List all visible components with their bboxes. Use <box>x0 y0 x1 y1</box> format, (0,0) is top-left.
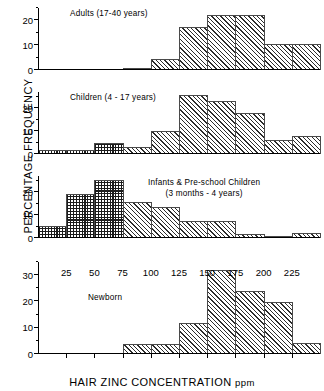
y-tick-minor <box>36 314 39 315</box>
panel-title-line: Newborn <box>88 292 122 303</box>
y-tick-label: 20 <box>22 187 33 197</box>
y-tick-minor <box>36 226 39 227</box>
x-tick-label: 100 <box>143 268 159 278</box>
panel-subtitle-line: (3 months - 4 years) <box>148 188 260 199</box>
panel-title-newborn: Newborn <box>88 292 122 303</box>
y-tick-label: 10 <box>22 210 33 220</box>
y-tick-minor <box>36 57 39 58</box>
histogram-bar <box>264 302 293 354</box>
x-tick <box>207 354 208 358</box>
histogram-bar <box>179 221 208 238</box>
histogram-bar <box>235 291 264 354</box>
y-tick-label: 20 <box>22 16 33 26</box>
x-tick <box>264 354 265 358</box>
histogram-bar <box>207 221 236 238</box>
y-tick-minor <box>36 32 39 33</box>
panel-title-adults: Adults (17-40 years) <box>70 8 148 19</box>
y-tick <box>34 237 38 238</box>
x-tick <box>292 354 293 358</box>
histogram-bar <box>207 15 236 70</box>
y-tick-minor <box>36 180 39 181</box>
histogram-bar <box>66 194 95 238</box>
x-tick-label: 225 <box>284 268 300 278</box>
x-axis-line <box>38 153 320 154</box>
panel-title-children: Children (4 - 17 years) <box>70 92 156 103</box>
y-tick-label: 20 <box>22 103 33 113</box>
x-tick-label: 50 <box>89 268 100 278</box>
y-tick-minor <box>36 119 39 120</box>
x-tick <box>179 354 180 358</box>
panel-title-line: Infants & Pre-school Children <box>148 177 260 188</box>
panel-title-line: Adults (17-40 years) <box>70 8 148 19</box>
x-axis-title-main: HAIR ZINC CONCENTRATION <box>69 376 231 388</box>
y-tick-label: 10 <box>22 126 33 136</box>
histogram-bar <box>235 113 264 154</box>
y-tick-minor <box>36 203 39 204</box>
x-tick-label: 75 <box>117 268 128 278</box>
y-tick <box>34 107 38 108</box>
histogram-bar <box>94 180 123 238</box>
x-tick <box>123 354 124 358</box>
histogram-bar <box>179 323 208 354</box>
x-tick-label: 175 <box>227 268 243 278</box>
histogram-bar <box>292 136 321 154</box>
histogram-bar <box>292 44 321 70</box>
y-tick-label: 10 <box>22 40 33 50</box>
y-axis-line <box>38 176 39 238</box>
histogram-bar <box>151 207 180 238</box>
histogram-bar <box>123 202 152 238</box>
panel-title-infants-preschool: Infants & Pre-school Children(3 months -… <box>148 177 260 199</box>
x-tick <box>151 354 152 358</box>
hair-zinc-histogram-figure: PERCENTAGE FREQUENCY 0102001020010200102… <box>0 0 324 391</box>
x-tick-label: 25 <box>61 268 72 278</box>
y-tick <box>34 353 38 354</box>
y-tick <box>34 153 38 154</box>
histogram-bar <box>207 101 236 155</box>
y-axis-line <box>38 8 39 70</box>
x-tick <box>94 354 95 358</box>
y-tick-label: 0 <box>28 149 33 159</box>
y-tick-label: 10 <box>22 323 33 333</box>
histogram-bar <box>151 131 180 154</box>
y-tick-minor <box>36 142 39 143</box>
y-tick <box>34 130 38 131</box>
y-tick-minor <box>36 7 39 8</box>
y-tick <box>34 19 38 20</box>
x-axis-line <box>38 237 320 238</box>
histogram-bar <box>179 27 208 70</box>
y-tick-label: 0 <box>28 349 33 359</box>
y-tick <box>34 274 38 275</box>
y-tick <box>34 300 38 301</box>
y-tick <box>34 214 38 215</box>
y-tick-minor <box>36 287 39 288</box>
y-tick-label: 0 <box>28 233 33 243</box>
histogram-bar <box>264 140 293 154</box>
x-tick <box>235 354 236 358</box>
y-axis-line <box>38 262 39 354</box>
y-tick-label: 0 <box>28 65 33 75</box>
y-tick-label: 30 <box>22 270 33 280</box>
x-axis-title-unit: ppm <box>235 377 255 388</box>
y-tick-label: 20 <box>22 297 33 307</box>
panel-newborn: 0102030255075100125150175200225 <box>38 262 320 354</box>
y-tick-minor <box>36 340 39 341</box>
y-tick <box>34 327 38 328</box>
x-tick <box>66 354 67 358</box>
histogram-bar <box>264 44 293 70</box>
y-tick-minor <box>36 261 39 262</box>
panel-title-line: Children (4 - 17 years) <box>70 92 156 103</box>
y-axis-line <box>38 92 39 154</box>
x-tick-label: 125 <box>171 268 187 278</box>
histogram-bar <box>235 15 264 70</box>
y-tick <box>34 191 38 192</box>
y-tick <box>34 44 38 45</box>
x-axis-title: HAIR ZINC CONCENTRATION ppm <box>0 376 324 388</box>
histogram-bar <box>179 95 208 154</box>
histogram-bar <box>207 270 236 354</box>
x-tick-label: 150 <box>199 268 215 278</box>
y-tick <box>34 69 38 70</box>
x-tick-label: 200 <box>256 268 272 278</box>
y-tick-minor <box>36 96 39 97</box>
x-axis-line <box>38 69 320 70</box>
